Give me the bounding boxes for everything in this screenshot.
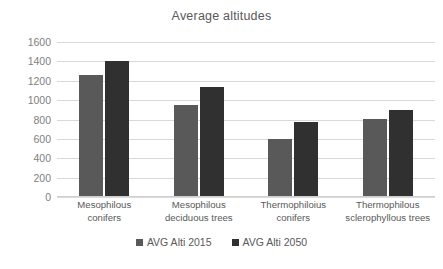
chart-title: Average altitudes — [0, 9, 443, 23]
x-axis-tick-label-line: sclerophyllous trees — [341, 212, 436, 225]
legend-item[interactable]: AVG Alti 2015 — [136, 236, 212, 248]
x-axis-tick-label-line: conifers — [246, 212, 341, 225]
y-axis-tick-label: 0 — [3, 191, 51, 203]
bar[interactable] — [105, 61, 129, 197]
y-axis-tick-label: 400 — [3, 152, 51, 164]
x-axis-tick-label: Thermophiloussclerophyllous trees — [341, 199, 436, 224]
x-axis-tick-label: Thermophiloiusconifers — [246, 199, 341, 224]
bar[interactable] — [363, 119, 387, 197]
x-axis-line — [57, 196, 435, 197]
legend-item[interactable]: AVG Alti 2050 — [232, 236, 308, 248]
y-axis-tick-label: 200 — [3, 172, 51, 184]
legend-label: AVG Alti 2050 — [243, 236, 308, 248]
y-axis-tick-label: 1600 — [3, 36, 51, 48]
bar-group — [341, 42, 436, 197]
y-axis-tick-label: 1200 — [3, 75, 51, 87]
chart-container: Average altitudes 1600140012001000800600… — [0, 0, 443, 269]
x-axis-tick-label-line: Thermophilous — [341, 199, 436, 212]
bar[interactable] — [200, 87, 224, 197]
x-axis-tick-label-line: conifers — [57, 212, 152, 225]
y-axis-tick-label: 1000 — [3, 94, 51, 106]
legend-swatch-icon — [232, 239, 239, 246]
x-axis-tick-label-line: deciduous trees — [152, 212, 247, 225]
x-axis-tick-label: Mesophilousconifers — [57, 199, 152, 224]
x-axis-tick-label-line: Mesophilous — [57, 199, 152, 212]
gridline — [57, 197, 435, 198]
bar-group — [246, 42, 341, 197]
bar-group — [152, 42, 247, 197]
legend-swatch-icon — [136, 239, 143, 246]
legend-label: AVG Alti 2015 — [147, 236, 212, 248]
chart-legend: AVG Alti 2015AVG Alti 2050 — [0, 236, 443, 248]
plot-area — [57, 42, 435, 197]
y-axis: 16001400120010008006004002000 — [3, 42, 51, 197]
bar[interactable] — [174, 105, 198, 197]
bar-group — [57, 42, 152, 197]
bar[interactable] — [294, 122, 318, 197]
x-axis-tick-label-line: Mesophilous — [152, 199, 247, 212]
y-axis-tick-label: 1400 — [3, 55, 51, 67]
bar[interactable] — [268, 139, 292, 197]
x-axis-tick-label-line: Thermophiloius — [246, 199, 341, 212]
y-axis-tick-label: 600 — [3, 133, 51, 145]
y-axis-tick-label: 800 — [3, 114, 51, 126]
bar[interactable] — [389, 110, 413, 197]
bar[interactable] — [79, 75, 103, 197]
x-axis-category-labels: MesophilousconifersMesophilousdeciduous … — [57, 199, 435, 231]
x-axis-tick-label: Mesophilousdeciduous trees — [152, 199, 247, 224]
